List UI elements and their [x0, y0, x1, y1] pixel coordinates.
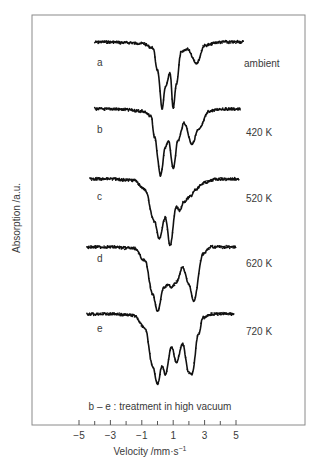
spectrum-point — [123, 41, 125, 43]
spectrum-point — [149, 47, 151, 49]
spectrum-point — [147, 45, 149, 47]
spectrum-point — [151, 364, 153, 366]
spectrum-point — [234, 246, 236, 248]
spectrum-point — [93, 177, 95, 179]
spectrum-point — [187, 369, 189, 371]
spectrum-point — [161, 168, 163, 170]
spectrum-point — [220, 43, 222, 45]
spectrum-point — [194, 60, 196, 62]
spectrum-point — [217, 245, 219, 247]
spectrum-point — [206, 44, 208, 46]
spectrum-point — [205, 115, 207, 117]
spectrum-point — [212, 312, 214, 314]
spectrum-point — [158, 237, 160, 239]
spectrum-point — [146, 113, 148, 115]
spectrum-point — [151, 47, 153, 49]
spectrum-point — [222, 312, 224, 314]
spectrum-point — [125, 41, 127, 43]
spectrum-point — [183, 49, 185, 51]
spectrum-point — [143, 112, 145, 114]
spectrum-point — [181, 267, 183, 269]
spectrum-point — [185, 357, 187, 359]
spectrum-point — [121, 248, 123, 250]
spectrum-point — [219, 245, 221, 247]
spectrum-point — [201, 184, 203, 186]
spectrum-point — [225, 245, 227, 247]
spectrum-point — [139, 321, 141, 323]
spectrum-point — [93, 247, 95, 249]
spectrum-point — [201, 50, 203, 52]
spectrum-point — [167, 284, 169, 286]
spectrum-point — [155, 140, 157, 142]
spectrum-point — [165, 148, 167, 150]
spectrum-point — [119, 246, 121, 248]
spectrum-point — [169, 284, 171, 286]
spectrum-point — [120, 43, 122, 45]
spectrum-point — [91, 247, 93, 249]
spectrum-point — [115, 246, 117, 248]
spectrum-point — [229, 312, 231, 314]
spectrum-point — [197, 129, 199, 131]
spectrum-point — [175, 207, 177, 209]
spectrum-point — [213, 41, 215, 43]
spectrum-point — [226, 312, 228, 314]
spectrum-point — [225, 40, 227, 42]
spectrum-point — [95, 247, 97, 249]
spectrum-point — [109, 109, 111, 111]
spectrum-point — [179, 209, 181, 211]
spectrum-point — [129, 313, 131, 315]
x-axis-ticks — [79, 420, 236, 425]
spectrum-point — [159, 374, 161, 376]
spectrum-point — [177, 280, 179, 282]
spectrum-point — [98, 177, 100, 179]
spectrum-point — [113, 178, 115, 180]
spectrum-point — [200, 126, 202, 128]
spectrum-point — [188, 284, 190, 286]
spectrum-point — [111, 42, 113, 44]
spectrum-point — [176, 361, 178, 363]
spectrum-point — [171, 98, 173, 100]
spectrum-point — [153, 221, 155, 223]
spectrum-point — [212, 245, 214, 247]
spectrum-point — [111, 108, 113, 110]
spectrum-point — [192, 192, 194, 194]
spectrum-point — [233, 314, 235, 316]
spectrum-point — [136, 250, 138, 252]
spectrum-point — [122, 314, 124, 316]
spectrum-point — [190, 373, 192, 375]
spectrum-point — [195, 134, 197, 136]
spectrum-point — [144, 111, 146, 113]
spectrum-point — [218, 42, 220, 44]
spectrum-point — [106, 108, 108, 110]
spectrum-point — [196, 287, 198, 289]
spectrum-point — [165, 217, 167, 219]
spectrum-point — [237, 178, 239, 180]
spectrum-point — [171, 347, 173, 349]
spectrum-point — [185, 125, 187, 127]
spectrum-point — [230, 107, 232, 109]
spectrum-point — [96, 107, 98, 109]
spectrum-point — [112, 312, 114, 314]
spectrum-point — [120, 179, 122, 181]
spectrum-point — [177, 206, 179, 208]
spectrum-point — [227, 179, 229, 181]
spectrum-point — [156, 69, 158, 71]
spectrum-point — [187, 128, 189, 130]
spectrum-point — [235, 42, 237, 44]
spectrum-point — [227, 245, 229, 247]
condition-label-720k: 720 K — [246, 326, 272, 337]
spectrum-point — [222, 248, 224, 250]
spectrum-point — [162, 289, 164, 291]
spectrum-point — [138, 253, 140, 255]
spectrum-point — [202, 123, 204, 125]
spectrum-point — [134, 247, 136, 249]
spectrum-point — [148, 199, 150, 201]
spectrum-point — [220, 177, 222, 179]
spectrum-point — [157, 310, 159, 312]
spectrum-point — [141, 258, 143, 260]
condition-label-420k: 420 K — [246, 127, 272, 138]
spectrum-point — [202, 45, 204, 47]
spectrum-point — [134, 43, 136, 45]
spectrum-point — [189, 286, 191, 288]
y-axis-label: Absorption /a.u. — [11, 183, 22, 253]
